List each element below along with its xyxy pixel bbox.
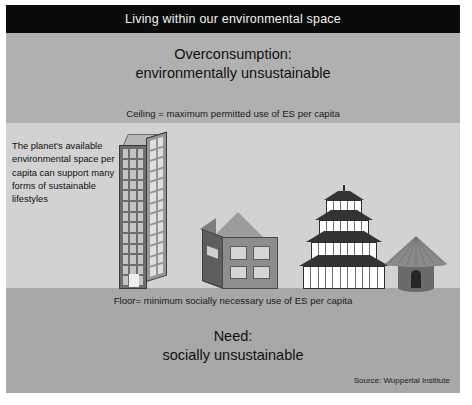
page-title: Living within our environmental space xyxy=(125,12,341,26)
need-label: Need: socially unsustainable xyxy=(6,327,460,365)
need-line-1: Need: xyxy=(6,327,460,346)
hut-door xyxy=(411,270,421,288)
skyscraper-front-windows xyxy=(123,149,143,285)
pagoda-eave-2 xyxy=(315,210,373,220)
house-side-window xyxy=(207,246,218,259)
skyscraper-icon xyxy=(119,134,175,289)
skyscraper-side-windows xyxy=(150,137,163,277)
environmental-space-description: The planet's available environmental spa… xyxy=(12,139,118,206)
skyscraper-front-face xyxy=(119,145,147,289)
source-attribution: Source: Wuppertal Institute xyxy=(354,376,450,385)
pagoda-eave-3 xyxy=(306,231,382,242)
pagoda-icon xyxy=(302,185,386,290)
overconsumption-line-2: environmentally unsustainable xyxy=(6,64,460,83)
house-front-face xyxy=(222,237,278,289)
need-line-2: socially unsustainable xyxy=(6,346,460,365)
skyscraper-entrance xyxy=(129,274,139,287)
pagoda-eave-1 xyxy=(324,191,364,200)
overconsumption-label: Overconsumption: environmentally unsusta… xyxy=(6,45,460,83)
slide-canvas: Living within our environmental space Ov… xyxy=(6,5,460,393)
floor-label: Floor= minimum socially necessary use of… xyxy=(6,295,460,306)
pagoda-eave-4 xyxy=(299,255,389,266)
overconsumption-line-1: Overconsumption: xyxy=(6,45,460,64)
house-roof-front xyxy=(212,212,264,238)
pagoda-body-4 xyxy=(303,266,385,289)
ceiling-label: Ceiling = maximum permitted use of ES pe… xyxy=(6,108,460,119)
house-side-face xyxy=(202,229,223,289)
house-icon xyxy=(198,212,280,290)
skyscraper-side-face xyxy=(146,132,167,282)
hut-icon xyxy=(385,236,447,290)
slide-title-bar: Living within our environmental space xyxy=(6,5,460,33)
hut-roof-ribs xyxy=(385,236,447,266)
house-front-windows xyxy=(230,246,270,279)
